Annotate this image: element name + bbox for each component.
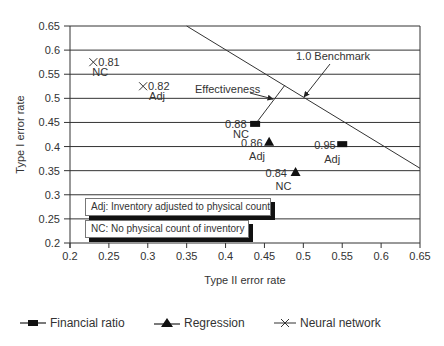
point-tag-label: NC	[276, 180, 292, 192]
x-tick-label: 0.4	[218, 250, 233, 262]
legend-label: Financial ratio	[50, 316, 125, 330]
x-marker-icon	[274, 318, 296, 328]
y-tick-label: 0.3	[45, 189, 60, 201]
x-tick-label: 0.35	[176, 250, 197, 262]
x-tick-label: 0.65	[409, 250, 430, 262]
x-axis-title: Type II error rate	[204, 274, 285, 286]
x-tick-label: 0.3	[140, 250, 155, 262]
chart-legend: Financial ratio Regression Neural networ…	[20, 316, 440, 334]
y-axis-title: Type I error rate	[14, 95, 26, 173]
note-adj: Adj: Inventory adjusted to physical coun…	[85, 198, 271, 216]
y-tick-label: 0.5	[45, 92, 60, 104]
x-tick-label: 0.25	[98, 250, 119, 262]
y-tick-label: 0.35	[39, 165, 60, 177]
square-marker	[250, 121, 260, 127]
y-tick-label: 0.55	[39, 68, 60, 80]
note-nc: NC: No physical count of inventory	[85, 220, 249, 238]
point-tag-label: Adj	[324, 153, 340, 165]
triangle-marker-icon	[154, 318, 180, 328]
scatter-chart: 0.650.60.550.50.450.40.350.30.250.20.20.…	[0, 0, 444, 346]
y-tick-label: 0.6	[45, 44, 60, 56]
square-marker	[337, 141, 347, 147]
x-tick-label: 0.45	[254, 250, 275, 262]
point-value-label: 0.86	[241, 137, 262, 149]
legend-item-neural-network: Neural network	[274, 316, 381, 330]
x-tick-label: 0.5	[296, 250, 311, 262]
y-tick-label: 0.4	[45, 141, 60, 153]
square-marker-icon	[20, 318, 46, 328]
legend-item-financial-ratio: Financial ratio	[20, 316, 125, 330]
y-tick-label: 0.45	[39, 116, 60, 128]
x-tick-label: 0.6	[373, 250, 388, 262]
y-tick-label: 0.2	[45, 237, 60, 249]
point-value-label: 0.84	[266, 167, 287, 179]
point-tag-label: Adj	[149, 90, 165, 102]
benchmark-arrow	[304, 64, 330, 97]
x-tick-label: 0.55	[332, 250, 353, 262]
legend-item-regression: Regression	[154, 316, 245, 330]
y-tick-label: 0.65	[39, 20, 60, 32]
point-value-label: 0.95	[314, 139, 335, 151]
point-tag-label: Adj	[249, 150, 265, 162]
point-tag-label: NC	[92, 66, 108, 78]
annotation-benchmark: 1.0 Benchmark	[296, 50, 370, 62]
triangle-marker	[264, 137, 274, 146]
legend-label: Neural network	[300, 316, 381, 330]
y-tick-label: 0.25	[39, 213, 60, 225]
effectiveness-line	[257, 85, 285, 122]
x-tick-label: 0.2	[62, 250, 77, 262]
triangle-marker	[291, 167, 301, 176]
legend-label: Regression	[184, 316, 245, 330]
